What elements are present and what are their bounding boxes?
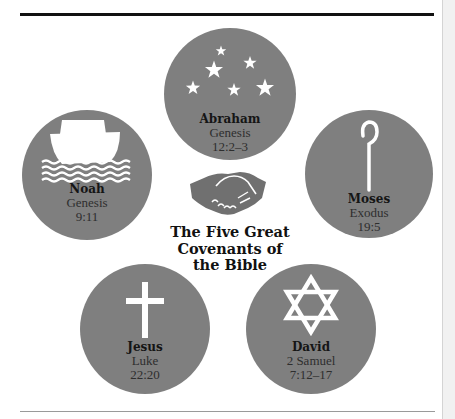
covenant-name: David: [246, 340, 376, 354]
covenant-book: Genesis: [164, 126, 296, 140]
covenant-book: Exodus: [305, 206, 433, 220]
covenant-verse: 12:2–3: [164, 140, 296, 154]
covenant-moses: Moses Exodus 19:5: [305, 110, 433, 238]
top-rule: [20, 13, 434, 16]
covenant-name: Abraham: [164, 112, 296, 126]
title-line: The Five Great: [150, 224, 310, 241]
covenant-name: Jesus: [80, 340, 210, 354]
covenant-verse: 7:12–17: [246, 368, 376, 382]
diagram-page: Abraham Genesis 12:2–3 Noah Genesis 9:11: [0, 0, 442, 419]
page-edge-scrollbar[interactable]: [442, 0, 455, 419]
covenant-abraham: Abraham Genesis 12:2–3: [164, 28, 296, 160]
covenant-david: David 2 Samuel 7:12–17: [246, 264, 376, 394]
covenant-noah: Noah Genesis 9:11: [22, 110, 152, 240]
covenant-verse: 9:11: [22, 210, 152, 224]
covenant-book: 2 Samuel: [246, 354, 376, 368]
bottom-rule: [20, 411, 435, 412]
covenant-name: Noah: [22, 182, 152, 196]
covenant-verse: 22:20: [80, 368, 210, 382]
covenant-jesus: Jesus Luke 22:20: [80, 264, 210, 394]
title-line: Covenants of: [150, 241, 310, 258]
covenant-book: Luke: [80, 354, 210, 368]
handshake-icon: [186, 168, 270, 216]
covenant-name: Moses: [305, 192, 433, 206]
covenant-verse: 19:5: [305, 220, 433, 234]
covenant-book: Genesis: [22, 196, 152, 210]
